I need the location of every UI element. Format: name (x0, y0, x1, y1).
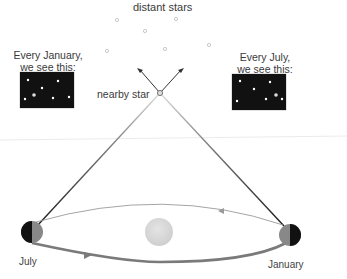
horizon-line (0, 136, 347, 140)
earth-july-icon (21, 221, 43, 243)
apparent-shift-arrows (137, 68, 184, 93)
sun-icon (145, 218, 173, 246)
sight-line-july (37, 93, 160, 226)
parallax-diagram (0, 0, 347, 279)
earth-january-icon (279, 224, 301, 246)
distant-stars (105, 17, 210, 52)
sight-line-january (160, 93, 284, 226)
nearby-star-icon (157, 90, 162, 95)
